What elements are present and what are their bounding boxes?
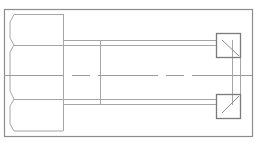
outer-frame xyxy=(5,10,253,137)
drawing-canvas xyxy=(0,0,257,154)
detail-box-upper-diagonal xyxy=(222,40,239,56)
bolt-drawing xyxy=(0,0,257,154)
hex-head-outline xyxy=(10,15,63,132)
detail-box-lower-diagonal xyxy=(222,96,239,113)
